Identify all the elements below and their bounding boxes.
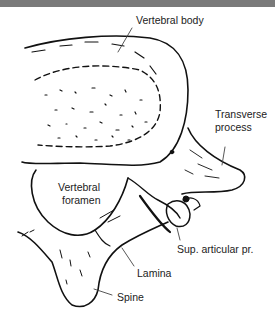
- label-vertebral-body: Vertebral body: [136, 14, 204, 26]
- lamina-spine-outline: [18, 222, 168, 307]
- label-sup-articular: Sup. articular pr.: [177, 243, 253, 255]
- label-transverse-process-1: Transverse: [215, 108, 267, 120]
- label-spine: Spine: [117, 291, 144, 303]
- sup-articular-outline: [166, 201, 190, 227]
- label-transverse-process-2: process: [215, 121, 252, 133]
- label-vertebral-foramen-1: Vertebral: [58, 181, 100, 193]
- label-lamina: Lamina: [137, 267, 171, 279]
- transverse-process-outline: [182, 128, 245, 194]
- label-vertebral-foramen-2: foramen: [62, 194, 101, 206]
